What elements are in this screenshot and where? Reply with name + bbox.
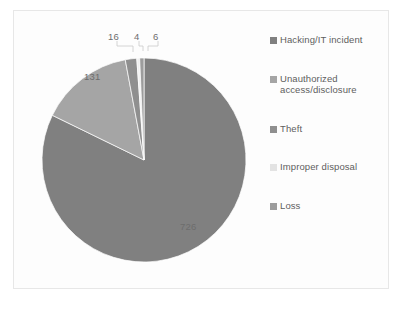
pie-chart-figure: 16 4 6 131 726 Hacking/IT incidentUnauth… <box>0 0 403 314</box>
legend-swatch-icon <box>270 37 277 44</box>
pie-data-label-improper-disposal: 4 <box>134 31 139 42</box>
legend-item-label: Hacking/IT incident <box>280 34 363 46</box>
leader-line-loss <box>148 41 158 51</box>
leader-line-disposal <box>139 41 143 51</box>
legend-item-label: Loss <box>280 200 300 212</box>
leader-line-theft <box>117 41 133 52</box>
chart-legend: Hacking/IT incidentUnauthorized access/d… <box>270 34 392 238</box>
pie-data-label-unauthorized-access: 131 <box>84 71 100 82</box>
legend-item-label: Improper disposal <box>280 161 357 173</box>
legend-item-theft[interactable]: Theft <box>270 123 392 135</box>
legend-item-improper-disposal[interactable]: Improper disposal <box>270 161 392 173</box>
label-leader-lines <box>117 41 158 52</box>
legend-item-loss[interactable]: Loss <box>270 200 392 212</box>
legend-swatch-icon <box>270 164 277 171</box>
pie-data-label-loss: 6 <box>153 31 158 42</box>
legend-item-hacking-it-incident[interactable]: Hacking/IT incident <box>270 34 392 46</box>
legend-swatch-icon <box>270 126 277 133</box>
pie-slice-group <box>42 58 246 262</box>
legend-item-label: Theft <box>280 123 302 135</box>
legend-swatch-icon <box>270 203 277 210</box>
pie-data-label-hacking-it-incident: 726 <box>180 221 196 232</box>
pie-data-label-theft: 16 <box>108 31 119 42</box>
legend-swatch-icon <box>270 76 277 83</box>
legend-item-unauthorized-access-disclosure[interactable]: Unauthorized access/disclosure <box>270 73 392 96</box>
legend-item-label: Unauthorized access/disclosure <box>280 73 392 96</box>
